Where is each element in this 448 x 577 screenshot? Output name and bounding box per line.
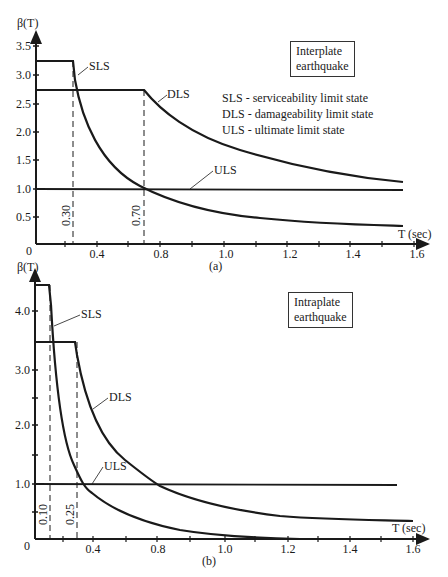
curve-label-dls-b: DLS — [109, 391, 132, 404]
leader-uls-b — [92, 467, 103, 484]
curve-label-sls-b: SLS — [81, 308, 102, 321]
curve-uls-a — [36, 189, 403, 190]
panel-label-b: (b) — [202, 555, 216, 568]
x-tick-a-1.6: 1.6 — [410, 248, 425, 260]
y-tick-b-4.0: 4.0 — [4, 305, 30, 317]
y-axis-label-b: β(T) — [17, 261, 38, 274]
y-tick-a-1.5: 1.5 — [5, 154, 31, 166]
curve-label-sls-a: SLS — [89, 60, 110, 73]
marker-label-010: 0.10 — [36, 504, 51, 525]
leader-sls-b — [54, 315, 80, 326]
curve-uls-b — [35, 484, 397, 485]
x-tick-b-0.8: 0.8 — [151, 543, 166, 555]
y-tick-a-2.0: 2.0 — [5, 126, 31, 138]
y-tick-a-0.5: 0.5 — [5, 211, 31, 223]
leader-dls-a — [158, 95, 167, 102]
y-tick-a-1.0: 1.0 — [5, 183, 31, 195]
y-tick-a-2.5: 2.5 — [5, 98, 31, 110]
curve-label-uls-b: ULS — [104, 460, 127, 473]
x-axis-label-b: T (sec) — [392, 522, 425, 535]
marker-label-025: 0.25 — [63, 504, 78, 525]
marker-label-030: 0.30 — [59, 205, 74, 226]
origin-label-b: 0 — [4, 540, 30, 552]
title-line-1: Intraplate — [294, 295, 347, 310]
curve-sls-b — [35, 285, 300, 539]
panel-label-a: (a) — [209, 260, 222, 273]
y-tick-b-2.0: 2.0 — [4, 419, 30, 431]
x-tick-b-1.2: 1.2 — [281, 543, 296, 555]
x-tick-b-1.0: 1.0 — [218, 543, 233, 555]
x-tick-a-0.8: 0.8 — [154, 248, 169, 260]
leader-sls-a — [78, 67, 88, 75]
x-tick-a-1.2: 1.2 — [283, 248, 298, 260]
title-line-2: earthquake — [296, 59, 349, 74]
curve-label-uls-a: ULS — [214, 164, 237, 177]
curve-label-dls-a: DLS — [167, 88, 190, 101]
marker-label-070: 0.70 — [129, 205, 144, 226]
x-tick-a-0.4: 0.4 — [90, 248, 105, 260]
x-tick-b-1.6: 1.6 — [406, 543, 421, 555]
leader-uls-a — [190, 171, 213, 189]
x-axis-label-a: T (sec) — [398, 228, 431, 241]
y-tick-a-3.0: 3.0 — [5, 69, 31, 81]
response-spectra-plots — [0, 0, 448, 577]
legend-item-dls: DLS - damageability limit state — [222, 106, 373, 122]
y-tick-b-3.0: 3.0 — [4, 364, 30, 376]
y-axis-label-a: β(T) — [17, 17, 38, 30]
title-box-b: Intraplate earthquake — [288, 292, 353, 328]
origin-label-a: 0 — [6, 245, 32, 257]
legend-item-sls: SLS - serviceability limit state — [222, 90, 373, 106]
x-tick-b-1.4: 1.4 — [343, 543, 358, 555]
y-tick-b-1.0: 1.0 — [4, 478, 30, 490]
x-tick-b-0.4: 0.4 — [86, 543, 101, 555]
x-tick-a-1.4: 1.4 — [346, 248, 361, 260]
leader-dls-b — [93, 398, 108, 409]
title-line-1: Interplate — [296, 44, 349, 59]
legend-a: SLS - serviceability limit state DLS - d… — [222, 90, 373, 138]
y-tick-a-3.5: 3.5 — [5, 40, 31, 52]
title-box-a: Interplate earthquake — [290, 41, 355, 77]
legend-item-uls: ULS - ultimate limit state — [222, 122, 373, 138]
title-line-2: earthquake — [294, 310, 347, 325]
